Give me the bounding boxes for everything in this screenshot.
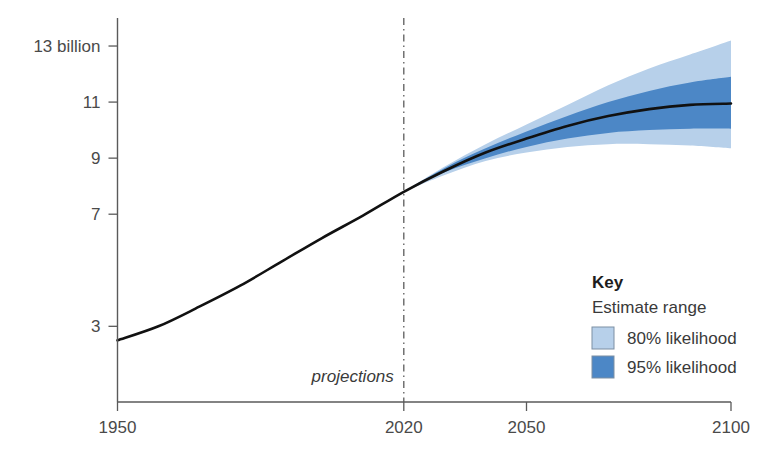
- chart-legend: Key Estimate range 80% likelihood95% lik…: [592, 273, 737, 378]
- legend-items: 80% likelihood95% likelihood: [592, 327, 737, 378]
- legend-subtitle: Estimate range: [592, 298, 706, 317]
- legend-item-label: 80% likelihood: [627, 329, 737, 348]
- y-tick-label: 11: [83, 93, 101, 112]
- y-tick-label: 13 billion: [33, 37, 100, 56]
- y-tick-label: 3: [91, 317, 100, 336]
- legend-item: 95% likelihood: [592, 356, 737, 378]
- legend-swatch: [592, 327, 614, 349]
- x-axis-ticks: 1950202020502100: [99, 402, 750, 437]
- x-tick-label: 1950: [99, 418, 137, 437]
- projections-label: projections: [311, 367, 395, 386]
- y-axis-ticks: 3791113 billion: [33, 37, 117, 336]
- x-tick-label: 2020: [385, 418, 423, 437]
- x-tick-label: 2050: [508, 418, 546, 437]
- y-tick-label: 7: [91, 205, 100, 224]
- projections-divider-group: projections: [311, 18, 404, 402]
- legend-title: Key: [592, 273, 624, 292]
- legend-item-label: 95% likelihood: [627, 358, 737, 377]
- x-tick-label: 2100: [712, 418, 750, 437]
- legend-swatch: [592, 356, 614, 378]
- population-projection-chart: projections 3791113 billion 195020202050…: [0, 0, 773, 449]
- y-tick-label: 9: [91, 149, 100, 168]
- legend-item: 80% likelihood: [592, 327, 737, 349]
- projection-bands: [404, 40, 731, 191]
- chart-canvas: projections 3791113 billion 195020202050…: [0, 0, 773, 449]
